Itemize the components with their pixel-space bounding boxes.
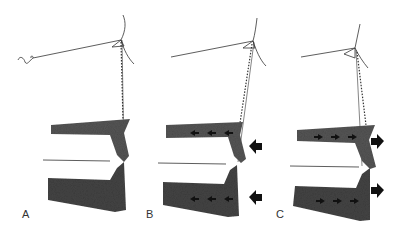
diagram-canvas <box>0 0 400 237</box>
arrow-right-icon <box>371 183 384 198</box>
midline <box>158 163 226 164</box>
lower-curve <box>253 41 266 66</box>
midline <box>290 166 359 167</box>
panel-label-b: B <box>146 208 153 220</box>
upper-block <box>51 119 130 162</box>
upper-curve <box>121 15 125 40</box>
panel-label-c: C <box>276 208 284 220</box>
upper-curve <box>355 24 360 48</box>
arrow-right-icon <box>371 134 384 149</box>
panel-c <box>290 24 384 221</box>
squiggle-curve <box>18 56 33 63</box>
string-line <box>171 41 253 57</box>
dotted-line <box>357 52 366 125</box>
midline <box>43 160 110 161</box>
lower-block <box>48 162 126 212</box>
upper-block <box>166 122 246 163</box>
arrow-left-icon <box>249 139 262 154</box>
arrow-left-icon <box>249 190 262 205</box>
upper-block <box>297 125 376 169</box>
string-line <box>33 40 121 58</box>
panel-b <box>158 18 266 217</box>
panel-a <box>18 15 134 212</box>
panel-label-a: A <box>22 208 29 220</box>
dotted-line <box>240 44 252 123</box>
lower-block <box>293 168 370 221</box>
upper-curve <box>253 18 257 41</box>
lower-block <box>163 165 239 217</box>
